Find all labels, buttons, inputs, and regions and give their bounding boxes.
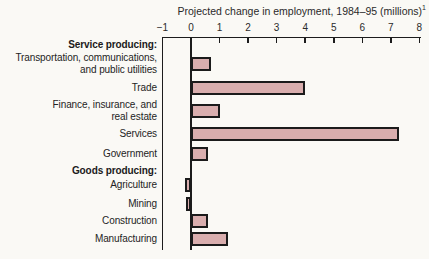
x-axis-line [162, 37, 421, 39]
axis-tick-label: 1 [217, 22, 223, 33]
plot-area: −1012345678Service producing:Transportat… [0, 0, 429, 259]
row-label: Finance, insurance, andreal estate [0, 99, 157, 122]
plot-left-border [162, 37, 164, 251]
axis-tick-mark [333, 38, 335, 43]
bar [191, 81, 305, 95]
axis-tick-mark [247, 38, 249, 43]
axis-tick-label: 8 [417, 22, 423, 33]
row-label: Services [0, 128, 157, 140]
axis-tick-label: 4 [302, 22, 308, 33]
axis-tick-label: 3 [274, 22, 280, 33]
axis-tick-label: 6 [360, 22, 366, 33]
chart-page: Projected change in employment, 1984–95 … [0, 0, 429, 259]
bar [191, 232, 228, 246]
axis-tick-label: 2 [245, 22, 251, 33]
axis-tick-label: −1 [157, 22, 168, 33]
axis-tick-mark [276, 38, 278, 43]
bar [191, 57, 211, 71]
row-label: Trade [0, 82, 157, 94]
row-label: Transportation, communications,and publi… [0, 52, 157, 75]
bar [191, 127, 399, 141]
row-label: Manufacturing [0, 233, 157, 245]
axis-tick-mark [390, 38, 392, 43]
axis-tick-mark [419, 38, 421, 43]
axis-tick-mark [219, 38, 221, 43]
section-header-label: Goods producing: [0, 165, 157, 177]
axis-tick-mark [304, 38, 306, 43]
axis-tick-label: 7 [388, 22, 394, 33]
bar [191, 214, 208, 228]
row-label: Agriculture [0, 179, 157, 191]
axis-tick-label: 0 [188, 22, 194, 33]
section-header-label: Service producing: [0, 39, 157, 51]
row-label: Construction [0, 215, 157, 227]
bar [191, 104, 220, 118]
axis-tick-mark [362, 38, 364, 43]
axis-tick-label: 5 [331, 22, 337, 33]
row-label: Government [0, 148, 157, 160]
bar [191, 147, 208, 161]
row-label: Mining [0, 198, 157, 210]
bar [185, 178, 191, 192]
bar [186, 197, 191, 211]
